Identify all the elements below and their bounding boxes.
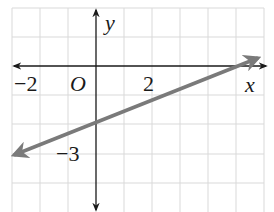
tick-label-x-2: 2 <box>143 71 154 96</box>
tick-label-x-neg2: −2 <box>14 71 37 96</box>
tick-label-y-neg3: −3 <box>56 141 79 166</box>
coordinate-graph: y x O −2 2 −3 <box>0 0 274 212</box>
y-axis-label: y <box>103 10 115 35</box>
origin-label: O <box>70 71 86 96</box>
grid <box>12 8 264 212</box>
graphed-line <box>14 58 258 155</box>
x-axis-label: x <box>244 72 255 97</box>
